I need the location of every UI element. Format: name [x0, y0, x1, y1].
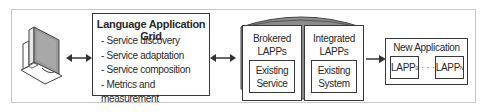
language-application-grid-box: Language Application Grid - Service disc…: [92, 13, 210, 96]
lag-feature-item: - Service composition: [101, 63, 209, 78]
bidirectional-arrow-icon: [66, 52, 92, 64]
lapp-n-subscript: N: [460, 65, 463, 71]
existing-service-line1: Existing: [256, 64, 289, 77]
lapp-0-label: LAPP: [391, 62, 415, 73]
new-application-title: New Application: [386, 42, 467, 53]
lag-feature-item: - Service discovery: [101, 34, 209, 49]
computer-monitor-icon: [18, 24, 68, 86]
lag-feature-item: - Metrics and measurement: [101, 78, 209, 107]
bidirectional-arrow-icon: [210, 52, 236, 64]
existing-system-line2: System: [318, 77, 350, 90]
lapp-0-box: LAPP0: [390, 56, 419, 79]
integrated-label-line1: Integrated: [305, 32, 363, 45]
directed-arrow-icon: [366, 53, 386, 65]
integrated-label-line2: LAPPs: [305, 45, 363, 58]
lapp-n-box: LAPPN: [435, 56, 464, 79]
brokered-label-line1: Brokered: [243, 32, 301, 45]
lapp-n-label: LAPP: [436, 62, 460, 73]
integrated-lapps-box: Integrated LAPPs Existing System: [304, 25, 364, 101]
existing-service-box: Existing Service: [249, 60, 295, 93]
lag-feature-item: - Service adaptation: [101, 49, 209, 64]
existing-system-line1: Existing: [318, 64, 351, 77]
ellipsis: · · ·: [421, 62, 435, 72]
lag-feature-list: - Service discovery - Service adaptation…: [101, 34, 209, 107]
existing-service-line2: Service: [256, 77, 287, 90]
new-application-box: New Application LAPP0 · · · LAPPN: [385, 38, 468, 85]
brokered-lapps-box: Brokered LAPPs Existing Service: [242, 25, 302, 101]
brokered-label-line2: LAPPs: [243, 45, 301, 58]
lapp-0-subscript: 0: [415, 65, 417, 71]
existing-system-box: Existing System: [311, 60, 357, 93]
